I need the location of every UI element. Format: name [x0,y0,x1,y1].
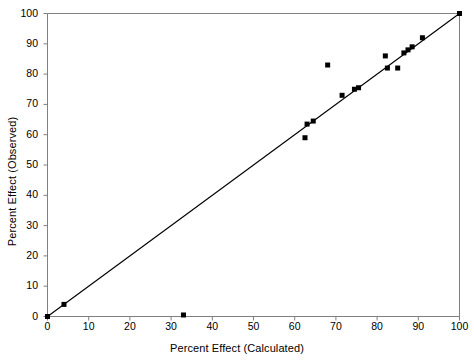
identity-line [48,14,460,317]
plot-canvas [0,0,474,363]
x-axis-tick-label: 80 [357,320,397,332]
y-axis-tick-label: 80 [4,67,38,79]
x-axis-tick-label: 40 [192,320,232,332]
data-point-marker [340,93,345,98]
x-axis-tick-label: 20 [110,320,150,332]
data-point-marker [457,11,462,16]
x-axis-tick-label: 50 [234,320,274,332]
y-axis-tick-label: 50 [4,158,38,170]
data-point-marker [303,135,308,140]
x-axis-title: Percent Effect (Calculated) [0,342,474,354]
data-point-marker [395,66,400,71]
y-axis-tick-label: 90 [4,37,38,49]
x-axis-tick-label: 100 [440,320,474,332]
y-axis-tick-label: 70 [4,97,38,109]
data-point-marker [61,302,66,307]
data-point-marker [305,122,310,127]
x-axis-tick-label: 30 [151,320,191,332]
data-point-marker [420,35,425,40]
x-axis-tick-label: 70 [316,320,356,332]
y-axis-tick-label: 40 [4,188,38,200]
data-point-marker [325,63,330,68]
x-axis-tick-label: 90 [398,320,438,332]
data-point-marker [181,312,186,317]
data-point-marker [385,66,390,71]
x-axis-tick-label: 0 [28,320,68,332]
data-point-marker [383,53,388,58]
data-point-marker [311,119,316,124]
data-point-marker [356,85,361,90]
y-axis-tick-label: 10 [4,279,38,291]
x-axis-tick-label: 10 [69,320,109,332]
data-point-marker [45,314,50,319]
data-point-marker [410,44,415,49]
y-axis-tick-label: 60 [4,128,38,140]
x-axis-tick-label: 60 [275,320,315,332]
scatter-chart: Percent Effect (Observed) Percent Effect… [0,0,474,363]
y-axis-tick-label: 20 [4,249,38,261]
y-axis-tick-label: 100 [4,7,38,19]
y-axis-tick-label: 30 [4,219,38,231]
